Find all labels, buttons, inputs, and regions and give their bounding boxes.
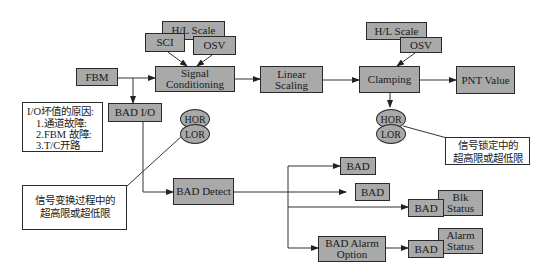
io-reasons-title: I/O坏值的原因: <box>27 105 98 118</box>
sci-block: SCI <box>145 33 185 52</box>
bad-io-label: BAD I/O <box>115 107 156 118</box>
clamping-block: Clamping <box>359 66 420 93</box>
clamp-note-line2: 超高限或超低限 <box>446 152 529 165</box>
lor-ellipse-conditioning: LOR <box>180 124 210 144</box>
signal-conditioning-line2: Conditioning <box>166 79 224 90</box>
conversion-limit-note: 信号变换过程中的 超高限或超低限 <box>22 185 127 230</box>
blk-status-block: Blk Status <box>438 190 483 216</box>
bad-label: BAD <box>414 203 437 214</box>
bad-label: BAD <box>346 161 369 172</box>
linear-scaling-block: Linear Scaling <box>260 66 323 93</box>
fbm-label: FBM <box>85 72 108 83</box>
osv-label: OSV <box>203 40 225 51</box>
linear-scaling-label: Linear Scaling <box>261 69 322 91</box>
clamp-limit-note: 信号锁定中的 超高限或超低限 <box>445 137 530 165</box>
bad-label: BAD <box>414 244 437 255</box>
pnt-value-label: PNT Value <box>461 75 509 86</box>
bad-detect-block: BAD Detect <box>173 178 234 205</box>
osv-block-clamping: OSV <box>400 37 442 53</box>
clamp-note-line1: 信号锁定中的 <box>446 139 529 152</box>
bad-detect-label: BAD Detect <box>176 186 231 197</box>
clamping-label: Clamping <box>368 74 411 85</box>
signal-conditioning-block: Signal Conditioning <box>155 66 235 92</box>
lor-label: LOR <box>381 129 401 140</box>
bad-io-block: BAD I/O <box>108 103 162 122</box>
hor-label: HOR <box>380 114 401 125</box>
blk-status-line2: Status <box>447 203 474 214</box>
osv-label: OSV <box>410 40 432 51</box>
alarm-status-line2: Status <box>447 241 474 252</box>
bad-label: BAD <box>361 187 384 198</box>
osv-block-conditioning: OSV <box>193 36 236 55</box>
io-reason-item: 2.FBM 故障: <box>36 129 98 140</box>
fbm-block: FBM <box>76 68 118 86</box>
lor-label: LOR <box>185 129 205 140</box>
pnt-value-block: PNT Value <box>456 66 515 94</box>
sci-label: SCI <box>156 37 173 48</box>
bad-alarm-option-block: BAD Alarm Option <box>318 236 386 262</box>
io-reasons-note: I/O坏值的原因: 1.通道故障: 2.FBM 故障: 3.T/C开路 <box>22 102 103 152</box>
hl-scale-label: H/L Scale <box>375 26 419 37</box>
io-reason-item: 3.T/C开路 <box>36 140 98 151</box>
bad-alarm-option-line2: Option <box>337 249 368 260</box>
io-reason-item: 1.通道故障: <box>36 118 98 129</box>
hor-label: HOR <box>184 114 205 125</box>
alarm-status-block: Alarm Status <box>438 228 483 254</box>
conversion-note-line1: 信号变换过程中的 <box>23 194 126 207</box>
bad-output-block: BAD <box>355 183 390 201</box>
bad-blk-block: BAD <box>408 199 444 217</box>
lor-ellipse-clamping: LOR <box>376 124 406 144</box>
conversion-note-line2: 超高限或超低限 <box>23 207 126 220</box>
bad-output-block: BAD <box>340 157 376 175</box>
bad-alarm-block: BAD <box>408 240 444 258</box>
